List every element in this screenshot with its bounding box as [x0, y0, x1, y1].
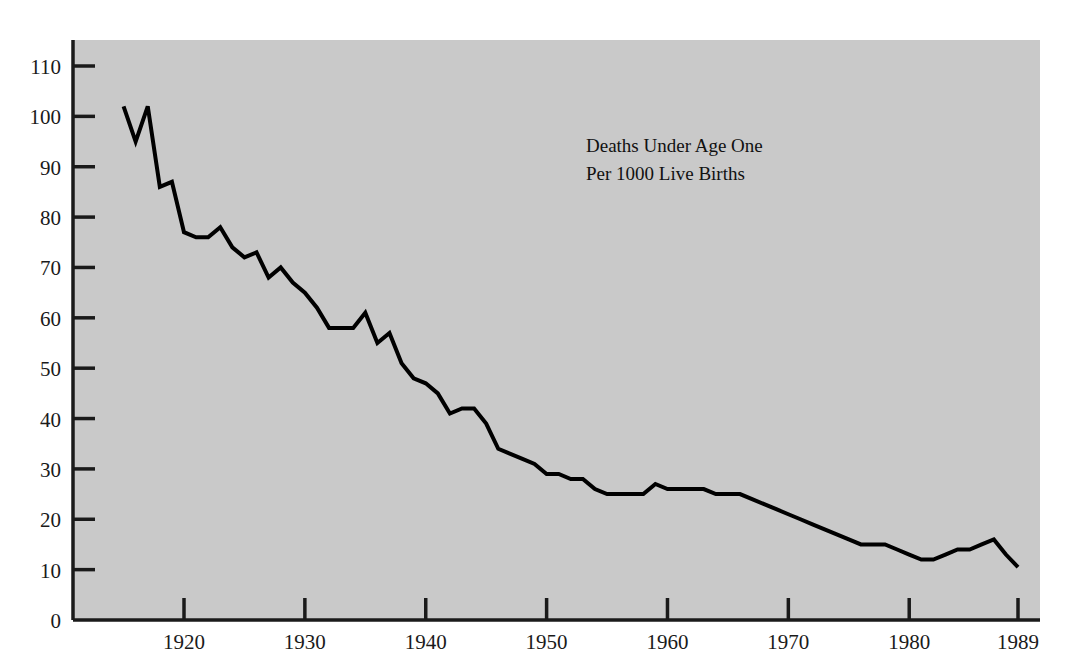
annotation-line-1: Deaths Under Age One — [586, 135, 763, 156]
y-tick-label-20: 20 — [40, 508, 61, 532]
x-tick-label-1960: 1960 — [646, 630, 688, 654]
y-tick-label-60: 60 — [40, 307, 61, 331]
infant-mortality-line-chart: 0102030405060708090100110 19201930194019… — [0, 0, 1068, 656]
x-tick-label-1970: 1970 — [767, 630, 809, 654]
x-tick-label-1940: 1940 — [405, 630, 447, 654]
y-tick-label-90: 90 — [40, 156, 61, 180]
y-tick-label-0: 0 — [51, 609, 62, 633]
x-tick-label-1920: 1920 — [163, 630, 205, 654]
x-tick-label-1930: 1930 — [284, 630, 326, 654]
y-tick-label-100: 100 — [30, 105, 62, 129]
y-tick-label-30: 30 — [40, 458, 61, 482]
annotation-line-2: Per 1000 Live Births — [586, 163, 745, 184]
y-tick-label-50: 50 — [40, 357, 61, 381]
y-tick-label-10: 10 — [40, 559, 61, 583]
plot-area-background — [73, 40, 1040, 620]
y-tick-label-70: 70 — [40, 256, 61, 280]
chart-figure: 0102030405060708090100110 19201930194019… — [0, 0, 1068, 656]
y-tick-label-40: 40 — [40, 408, 61, 432]
x-tick-label-1980: 1980 — [888, 630, 930, 654]
y-tick-label-80: 80 — [40, 206, 61, 230]
y-tick-label-110: 110 — [30, 55, 61, 79]
x-tick-label-1989: 1989 — [997, 630, 1039, 654]
x-tick-label-1950: 1950 — [526, 630, 568, 654]
